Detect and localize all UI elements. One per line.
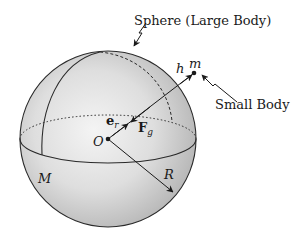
height-arrow (180, 75, 192, 84)
gravity-force-subscript: g (147, 127, 153, 137)
gravity-force-label: Fg (138, 121, 153, 134)
unit-vector-subscript: r (114, 120, 118, 130)
height-label: h (176, 62, 184, 75)
small-body-point (192, 71, 197, 76)
sphere-label: Sphere (Large Body) (134, 14, 271, 27)
mass-large-label: M (38, 172, 51, 185)
diagram-graphics (0, 0, 297, 235)
radius-label: R (164, 168, 174, 181)
gravity-force-base: F (138, 120, 147, 135)
mass-small-label: m (189, 57, 201, 70)
unit-vector-label: er (106, 114, 119, 127)
origin-point (106, 137, 111, 142)
small-body-label: Small Body (215, 98, 289, 111)
gravity-sphere-diagram: Sphere (Large Body) Small Body O M m R h… (0, 0, 297, 235)
origin-label: O (93, 135, 104, 148)
